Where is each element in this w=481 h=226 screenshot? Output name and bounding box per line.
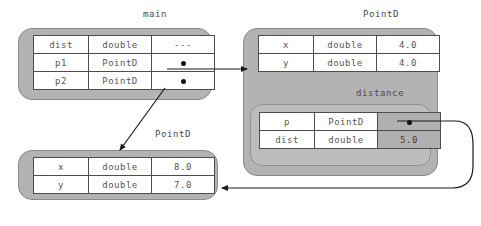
pointer-dot <box>407 120 412 125</box>
frame-label-pointd-bottom: PointD <box>155 129 191 139</box>
cell-var-type: PointD <box>89 54 152 72</box>
cell-var-type: PointD <box>89 72 152 90</box>
pointer-dot <box>181 79 186 84</box>
cell-var-name: x <box>34 158 89 176</box>
cell-var-type: double <box>314 54 377 72</box>
cell-var-name: dist <box>34 36 89 54</box>
frame-label-distance: distance <box>356 88 404 98</box>
memory-diagram: main dist double --- p1 PointD p2 PointD… <box>0 0 481 226</box>
cell-var-value-pointer <box>378 113 441 131</box>
table-row: p1 PointD <box>34 54 215 72</box>
table-row: dist double --- <box>34 36 215 54</box>
cell-var-value: 4.0 <box>377 54 440 72</box>
cell-var-type: PointD <box>315 113 378 131</box>
cell-var-name: p2 <box>34 72 89 90</box>
cell-var-value: --- <box>152 36 215 54</box>
cell-var-type: double <box>315 131 378 149</box>
cell-var-type: double <box>89 36 152 54</box>
table-row: dist double 5.0 <box>260 131 441 149</box>
table-row: x double 4.0 <box>259 36 440 54</box>
cell-var-type: double <box>314 36 377 54</box>
table-row: y double 7.0 <box>34 176 215 194</box>
table-row: y double 4.0 <box>259 54 440 72</box>
frame-label-main: main <box>143 9 167 19</box>
cell-var-name: y <box>34 176 89 194</box>
cell-var-value: 5.0 <box>378 131 441 149</box>
pointer-dot <box>181 61 186 66</box>
table-row: p PointD <box>260 113 441 131</box>
table-row: p2 PointD <box>34 72 215 90</box>
table-pointd-bottom: x double 8.0 y double 7.0 <box>33 157 215 194</box>
cell-var-value: 8.0 <box>152 158 215 176</box>
frame-label-pointd-top: PointD <box>363 9 399 19</box>
cell-var-value: 7.0 <box>152 176 215 194</box>
cell-var-name: p <box>260 113 315 131</box>
cell-var-type: double <box>89 176 152 194</box>
cell-var-name: y <box>259 54 314 72</box>
cell-var-name: dist <box>260 131 315 149</box>
cell-var-name: x <box>259 36 314 54</box>
table-row: x double 8.0 <box>34 158 215 176</box>
cell-var-value: 4.0 <box>377 36 440 54</box>
table-main: dist double --- p1 PointD p2 PointD <box>33 35 215 90</box>
cell-var-name: p1 <box>34 54 89 72</box>
table-distance: p PointD dist double 5.0 <box>259 112 441 149</box>
table-pointd-top: x double 4.0 y double 4.0 <box>258 35 440 72</box>
cell-var-value-pointer <box>152 54 215 72</box>
cell-var-value-pointer <box>152 72 215 90</box>
cell-var-type: double <box>89 158 152 176</box>
